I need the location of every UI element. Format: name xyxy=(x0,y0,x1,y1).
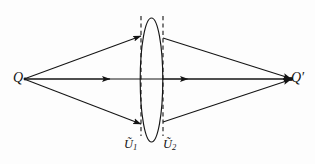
diagram-canvas xyxy=(0,0,315,164)
label-image-q-prime: Q′ xyxy=(291,71,304,85)
label-surface-u1-subscript: 1 xyxy=(133,142,137,152)
source-point-dot xyxy=(24,78,27,81)
label-surface-u1: Ũ1 xyxy=(124,138,137,152)
label-surface-u2-subscript: 2 xyxy=(172,142,176,152)
label-surface-u2-base: Ũ xyxy=(163,137,172,151)
incident-ray-upper xyxy=(24,36,141,79)
lens-ellipse xyxy=(140,18,163,142)
ray-diagram-figure: Q Q′ Ũ1 Ũ2 xyxy=(0,0,315,164)
label-surface-u2: Ũ2 xyxy=(163,138,176,152)
incident-ray-lower xyxy=(24,79,141,124)
label-source-q: Q xyxy=(13,71,23,85)
emergent-ray-lower xyxy=(163,79,291,122)
label-surface-u1-base: Ũ xyxy=(124,137,133,151)
emergent-ray-upper xyxy=(163,38,291,79)
